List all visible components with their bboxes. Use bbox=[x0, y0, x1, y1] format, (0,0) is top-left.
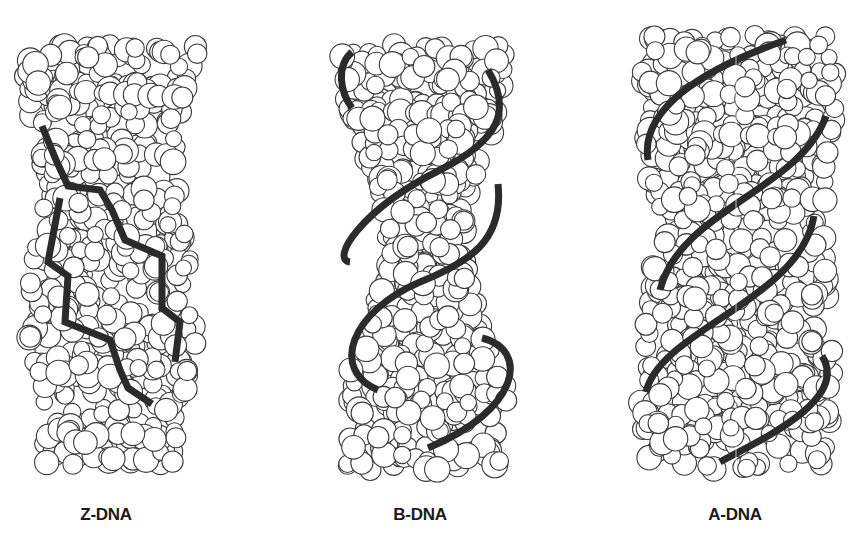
a-dna-label: A-DNA bbox=[708, 505, 761, 525]
a-dna-atoms bbox=[629, 26, 846, 482]
dna-forms-figure: Z-DNA B-DNA A-DNA bbox=[0, 0, 862, 542]
b-dna-label: B-DNA bbox=[393, 505, 446, 525]
z-dna-label: Z-DNA bbox=[80, 505, 131, 525]
a-dna-space-filling-model bbox=[0, 0, 862, 542]
